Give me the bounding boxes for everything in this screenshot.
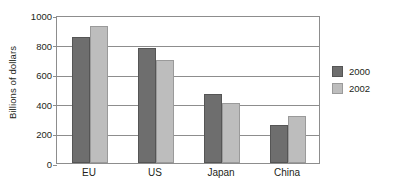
- y-axis-title-text: Billions of dollars: [8, 46, 19, 119]
- bar[interactable]: [138, 48, 156, 163]
- legend-label: 2002: [349, 84, 370, 94]
- legend-swatch-icon: [332, 83, 343, 94]
- x-axis-tick-label-us: US: [148, 168, 162, 178]
- bar-group: [204, 17, 240, 163]
- legend-item-2000[interactable]: 2000: [332, 63, 370, 80]
- bar[interactable]: [72, 37, 90, 163]
- x-axis-tick-label-eu: EU: [82, 168, 96, 178]
- bar-group: [270, 17, 306, 163]
- legend-swatch-icon: [332, 66, 343, 77]
- bar[interactable]: [270, 125, 288, 163]
- x-axis-tick-label-japan: Japan: [207, 168, 234, 178]
- bar[interactable]: [222, 103, 240, 163]
- bar-group: [138, 17, 174, 163]
- y-axis-tick-label: 1000: [31, 12, 57, 22]
- bar[interactable]: [204, 94, 222, 163]
- bar[interactable]: [288, 116, 306, 163]
- y-axis-tick-label: 400: [36, 101, 57, 111]
- y-axis-tick-label: 0: [47, 160, 57, 170]
- bar-group: [72, 17, 108, 163]
- plot-area: 02004006008001000: [56, 16, 320, 164]
- x-axis-tick-label-china: China: [274, 168, 300, 178]
- chart-legend: 20002002: [332, 63, 370, 97]
- bar[interactable]: [90, 26, 108, 163]
- legend-label: 2000: [349, 67, 370, 77]
- bar[interactable]: [156, 60, 174, 163]
- y-axis-tick-label: 800: [36, 42, 57, 52]
- legend-item-2002[interactable]: 2002: [332, 80, 370, 97]
- bar-chart-figure: Billions of dollars 02004006008001000 EU…: [0, 0, 396, 195]
- y-axis-tick-label: 600: [36, 71, 57, 81]
- y-axis-title: Billions of dollars: [0, 0, 26, 165]
- y-axis-tick-label: 200: [36, 131, 57, 141]
